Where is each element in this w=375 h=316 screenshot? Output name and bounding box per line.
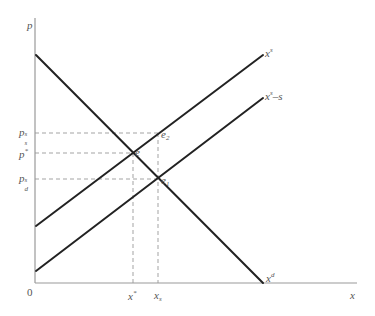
diagram-canvas: [0, 0, 375, 316]
ps-s-label: pss: [19, 127, 31, 138]
origin-label: 0: [27, 287, 33, 298]
point-e2-label: e2: [161, 129, 169, 142]
pd-s-label: psd: [19, 173, 31, 184]
supply-label: xs: [265, 47, 273, 59]
p-star-label: p*: [19, 148, 28, 160]
supply-subsidy-curve: [36, 98, 263, 271]
point-e1-label: e1: [161, 175, 169, 188]
supply-subsidy-label: xs–s: [265, 90, 282, 102]
y-axis-label: p: [27, 20, 33, 31]
x-axis-label: x: [350, 290, 355, 301]
demand-curve: [36, 55, 263, 283]
supply-curve: [36, 55, 263, 226]
demand-label: xd: [266, 272, 274, 284]
x-star-label: x*: [128, 290, 136, 302]
x-s-label: xs: [154, 290, 162, 303]
point-e-label: e: [135, 147, 140, 158]
